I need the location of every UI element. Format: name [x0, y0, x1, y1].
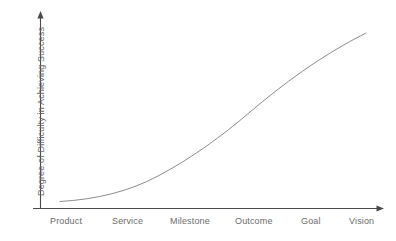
- difficulty-curve: [60, 33, 366, 202]
- y-axis-arrowhead: [37, 11, 43, 19]
- x-tick-label-service: Service: [112, 216, 143, 227]
- y-axis-title: Degree of Difficulty in Achieving Succes…: [36, 27, 46, 196]
- x-tick-label-outcome: Outcome: [235, 216, 273, 227]
- x-tick-label-milestone: Milestone: [170, 216, 210, 227]
- chart-plot-area: [0, 0, 396, 241]
- x-axis-arrowhead: [377, 205, 385, 211]
- x-tick-label-goal: Goal: [301, 216, 321, 227]
- x-tick-label-product: Product: [50, 216, 82, 227]
- x-tick-label-vision: Vision: [349, 216, 374, 227]
- chart-container: Degree of Difficulty in Achieving Succes…: [0, 0, 396, 241]
